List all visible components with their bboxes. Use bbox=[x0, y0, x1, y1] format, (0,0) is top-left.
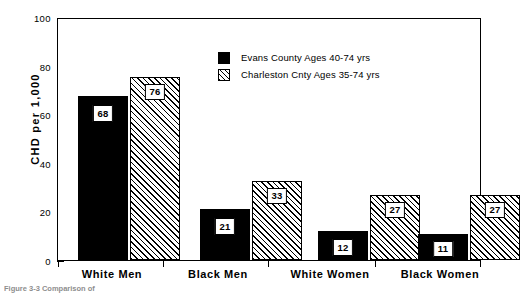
legend-entry-label: Evans County Ages 40-74 yrs bbox=[241, 52, 370, 63]
legend-entry-evans-county[interactable]: Evans County Ages 40-74 yrs bbox=[218, 49, 380, 66]
bar-value-label: 76 bbox=[145, 84, 165, 101]
bar-evans-black-men[interactable]: 21 bbox=[200, 209, 250, 260]
y-tick-label-80: 80 bbox=[17, 61, 51, 72]
bar-group-white-men: 68 76 bbox=[78, 19, 183, 260]
legend: Evans County Ages 40-74 yrs Charleston C… bbox=[218, 49, 380, 83]
y-tick-label-40: 40 bbox=[17, 158, 51, 169]
bar-group-black-women: 11 27 bbox=[418, 19, 523, 260]
x-category-label-black-men: Black Men bbox=[188, 268, 248, 280]
bar-evans-white-women[interactable]: 12 bbox=[318, 231, 368, 260]
bar-evans-black-women[interactable]: 11 bbox=[418, 234, 468, 261]
bar-value-label: 33 bbox=[267, 188, 287, 205]
x-tick-mark-4 bbox=[480, 261, 481, 267]
bar-value-label: 27 bbox=[485, 202, 505, 219]
bar-value-label: 12 bbox=[333, 239, 353, 256]
y-tick-label-0: 0 bbox=[17, 256, 51, 267]
legend-entry-charleston-cnty[interactable]: Charleston Cnty Ages 35-74 yrs bbox=[218, 66, 380, 83]
y-tick-label-100: 100 bbox=[17, 13, 51, 24]
x-tick-mark-1 bbox=[163, 261, 164, 267]
x-category-label-white-men: White Men bbox=[82, 268, 142, 280]
x-category-label-white-women: White Women bbox=[290, 268, 369, 280]
bar-charleston-black-women[interactable]: 27 bbox=[470, 195, 520, 260]
y-tick-label-60: 60 bbox=[17, 110, 51, 121]
x-tick-mark-3 bbox=[375, 261, 376, 267]
bar-value-label: 27 bbox=[385, 202, 405, 219]
figure-caption: Figure 3-3 Comparison of bbox=[4, 284, 304, 293]
x-tick-mark-0 bbox=[58, 261, 59, 267]
x-tick-mark-2 bbox=[268, 261, 269, 267]
x-category-label-black-women: Black Women bbox=[401, 268, 480, 280]
bar-value-label: 68 bbox=[93, 105, 113, 122]
bar-charleston-black-men[interactable]: 33 bbox=[252, 181, 302, 261]
legend-entry-label: Charleston Cnty Ages 35-74 yrs bbox=[241, 69, 380, 80]
y-tick-label-20: 20 bbox=[17, 207, 51, 218]
bar-charleston-white-women[interactable]: 27 bbox=[370, 195, 420, 260]
hatched-square-icon bbox=[218, 69, 230, 81]
bar-value-label: 11 bbox=[433, 241, 453, 258]
bar-charleston-white-men[interactable]: 76 bbox=[130, 77, 180, 260]
bar-value-label: 21 bbox=[215, 218, 235, 235]
bar-evans-white-men[interactable]: 68 bbox=[78, 96, 128, 260]
solid-black-square-icon bbox=[218, 52, 230, 64]
